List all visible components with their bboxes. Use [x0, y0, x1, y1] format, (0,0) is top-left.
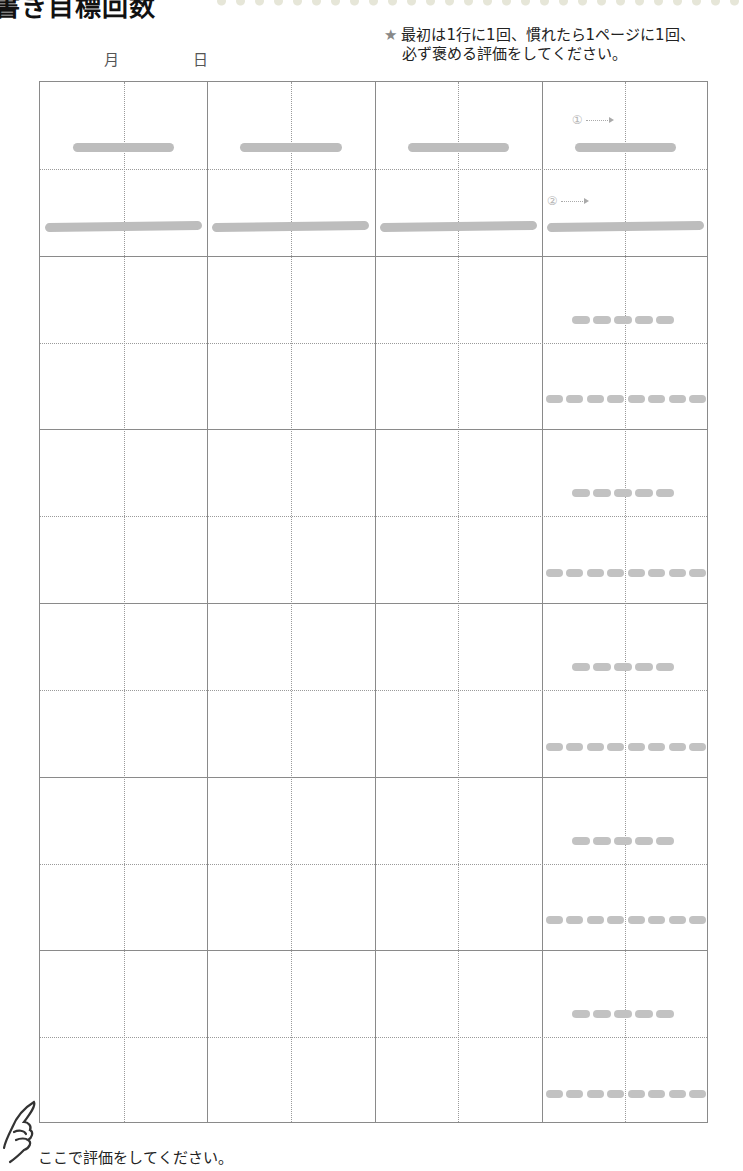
- column-center-guide: [458, 82, 459, 1122]
- title-decoration: [212, 0, 743, 8]
- short-dashed-guide: [614, 837, 632, 845]
- long-dashed-guide: [566, 916, 583, 924]
- short-guide-stroke: [240, 143, 341, 152]
- long-dashed-guide: [669, 395, 686, 403]
- practice-grid: ①②: [39, 81, 708, 1123]
- short-dashed-guide: [572, 1010, 590, 1018]
- long-dashed-guide: [607, 916, 624, 924]
- short-dashed-guide: [614, 663, 632, 671]
- row-divider: [40, 603, 707, 604]
- circled-1: ①: [572, 113, 583, 127]
- long-dashed-guide: [546, 743, 563, 751]
- long-dashed-guide: [587, 569, 604, 577]
- long-dashed-guide: [566, 743, 583, 751]
- long-dashed-guide: [689, 916, 706, 924]
- long-dashed-guide: [566, 1090, 583, 1098]
- short-dashed-guide: [635, 489, 653, 497]
- row-center-guide: [40, 169, 707, 170]
- column-center-guide: [124, 82, 125, 1122]
- column-divider: [542, 82, 543, 1122]
- long-dashed-guide: [669, 743, 686, 751]
- short-dashed-guide: [593, 316, 611, 324]
- long-dashed-guide: [587, 1090, 604, 1098]
- long-dashed-guide: [628, 743, 645, 751]
- long-dashed-guide: [648, 569, 665, 577]
- long-dashed-guide: [648, 743, 665, 751]
- long-dashed-guide: [587, 395, 604, 403]
- short-dashed-guide: [635, 837, 653, 845]
- short-dashed-guide: [572, 663, 590, 671]
- long-dashed-guide: [669, 1090, 686, 1098]
- long-dashed-guide: [628, 1090, 645, 1098]
- long-dashed-guide: [607, 395, 624, 403]
- footer-evaluate-text: ここで評価をしてください。: [38, 1146, 233, 1167]
- long-dashed-guide: [587, 916, 604, 924]
- long-dashed-guide: [689, 1090, 706, 1098]
- short-dashed-guide: [593, 663, 611, 671]
- short-guide-stroke: [408, 143, 509, 152]
- long-dashed-guide: [648, 395, 665, 403]
- instruction-note: ★最初は1行に1回、慣れたら1ページに1回、 必ず褒める評価をしてください。: [384, 26, 695, 64]
- short-dashed-guide: [593, 837, 611, 845]
- short-dashed-guide: [593, 489, 611, 497]
- instruction-line-1: 最初は1行に1回、慣れたら1ページに1回、: [401, 26, 694, 44]
- long-dashed-guide: [669, 916, 686, 924]
- long-dashed-guide: [607, 743, 624, 751]
- long-dashed-guide: [689, 569, 706, 577]
- short-dashed-guide: [656, 489, 674, 497]
- long-dashed-guide: [587, 743, 604, 751]
- row-divider: [40, 950, 707, 951]
- marker-2: ②: [547, 194, 587, 208]
- instruction-line-2: 必ず褒める評価をしてください。: [384, 45, 695, 64]
- short-dashed-guide: [614, 489, 632, 497]
- long-dashed-guide: [566, 569, 583, 577]
- page-title: 書き目標回数: [0, 0, 156, 23]
- short-dashed-guide: [635, 316, 653, 324]
- column-center-guide: [291, 82, 292, 1122]
- short-guide-stroke: [73, 143, 174, 152]
- long-dashed-guide: [628, 916, 645, 924]
- row-divider: [40, 777, 707, 778]
- date-month-label: 月: [104, 48, 119, 69]
- long-dashed-guide: [648, 1090, 665, 1098]
- marker-1: ①: [572, 113, 612, 127]
- long-dashed-guide: [607, 1090, 624, 1098]
- long-guide-stroke: [45, 221, 202, 232]
- long-dashed-guide: [546, 916, 563, 924]
- long-dashed-guide: [628, 395, 645, 403]
- arrow-right-icon: [586, 120, 612, 121]
- long-guide-stroke: [547, 221, 704, 232]
- row-center-guide: [40, 343, 707, 344]
- long-dashed-guide: [689, 743, 706, 751]
- row-divider: [40, 429, 707, 430]
- arrow-right-icon: [561, 201, 587, 202]
- long-dashed-guide: [546, 395, 563, 403]
- star-icon: ★: [384, 26, 397, 44]
- short-dashed-guide: [614, 316, 632, 324]
- long-dashed-guide: [669, 569, 686, 577]
- row-center-guide: [40, 690, 707, 691]
- long-dashed-guide: [628, 569, 645, 577]
- short-dashed-guide: [572, 837, 590, 845]
- short-dashed-guide: [656, 837, 674, 845]
- long-dashed-guide: [648, 916, 665, 924]
- long-guide-stroke: [379, 221, 536, 232]
- short-dashed-guide: [593, 1010, 611, 1018]
- long-dashed-guide: [689, 395, 706, 403]
- column-divider: [207, 82, 208, 1122]
- circled-2: ②: [547, 194, 558, 208]
- short-dashed-guide: [614, 1010, 632, 1018]
- long-dashed-guide: [566, 395, 583, 403]
- row-divider: [40, 256, 707, 257]
- column-center-guide: [625, 82, 626, 1122]
- column-divider: [375, 82, 376, 1122]
- pointing-hand-icon: [2, 1098, 42, 1164]
- short-dashed-guide: [635, 1010, 653, 1018]
- short-dashed-guide: [635, 663, 653, 671]
- short-dashed-guide: [572, 316, 590, 324]
- short-dashed-guide: [656, 663, 674, 671]
- row-center-guide: [40, 864, 707, 865]
- long-dashed-guide: [607, 569, 624, 577]
- row-center-guide: [40, 516, 707, 517]
- long-dashed-guide: [546, 1090, 563, 1098]
